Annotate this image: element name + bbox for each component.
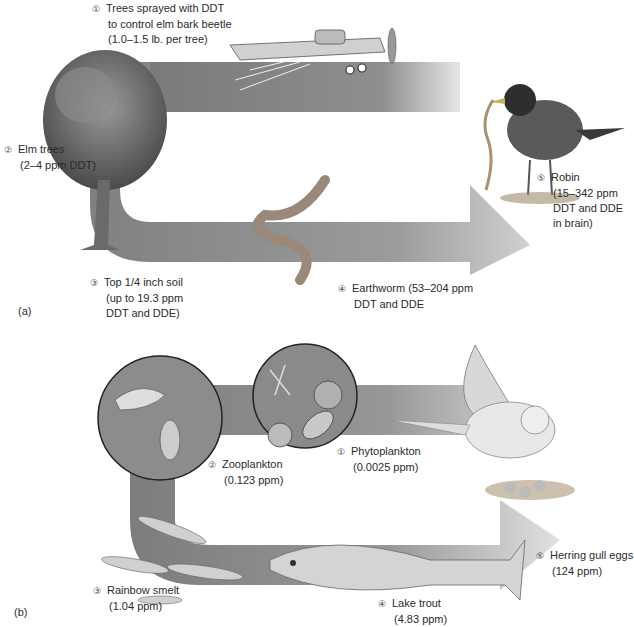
step-number: ④	[338, 284, 346, 294]
label-line: (up to 19.3 ppm	[90, 291, 183, 306]
step-number: ⑤	[536, 551, 544, 561]
label-a-step4: ④Earthworm (53–204 ppm DDT and DDE	[338, 281, 473, 312]
step-number: ⑤	[537, 173, 545, 183]
step-number: ④	[378, 599, 386, 609]
label-line: (124 ppm)	[536, 564, 633, 579]
label-a-step5: ⑤Robin (15–342 ppm DDT and DDE in brain)	[537, 170, 623, 231]
panel-b-label: (b)	[14, 606, 27, 618]
label-line: (0.0025 ppm)	[337, 460, 421, 475]
label-line: (15–342 ppm	[537, 186, 623, 201]
label-line: DDT and DDE	[537, 201, 623, 216]
herring-gull-illustration	[390, 345, 575, 500]
label-line: (1.04 ppm)	[93, 599, 179, 614]
label-line: (1.0–1.5 lb. per tree)	[92, 32, 232, 47]
label-line: Trees sprayed with DDT	[106, 2, 224, 14]
label-line: (4.83 ppm)	[378, 612, 447, 627]
label-line: (0.123 ppm)	[208, 473, 283, 488]
label-line: Phytoplankton	[351, 445, 421, 457]
label-line: in brain)	[537, 216, 623, 231]
label-b-step1: ①Phytoplankton (0.0025 ppm)	[337, 444, 421, 475]
label-a-step1: ①Trees sprayed with DDT to control elm b…	[92, 1, 232, 47]
panel-a-label: (a)	[18, 305, 31, 317]
step-number: ③	[90, 278, 98, 288]
label-line: Herring gull eggs	[550, 549, 633, 561]
label-line: Zooplankton	[222, 458, 283, 470]
step-number: ②	[4, 145, 12, 155]
label-b-step2: ②Zooplankton (0.123 ppm)	[208, 457, 283, 488]
label-b-step3: ③Rainbow smelt (1.04 ppm)	[93, 583, 179, 614]
label-b-step4: ④Lake trout (4.83 ppm)	[378, 596, 447, 627]
zooplankton-circle	[98, 356, 222, 480]
label-line: Robin	[551, 171, 580, 183]
label-line: Earthworm (53–204 ppm	[352, 282, 473, 294]
label-a-step3: ③Top 1/4 inch soil (up to 19.3 ppm DDT a…	[90, 275, 183, 321]
label-line: Elm trees	[18, 143, 64, 155]
label-line: DDT and DDE)	[90, 306, 183, 321]
label-line: DDT and DDE	[338, 297, 473, 312]
step-number: ①	[92, 4, 100, 14]
step-number: ②	[208, 460, 216, 470]
label-b-step5: ⑤Herring gull eggs (124 ppm)	[536, 548, 633, 579]
phytoplankton-circle	[253, 344, 357, 448]
label-line: Rainbow smelt	[107, 584, 179, 596]
label-line: to control elm bark beetle	[92, 17, 232, 32]
label-a-step2: ②Elm trees (2–4 ppm DDT)	[4, 142, 96, 173]
label-line: (2–4 ppm DDT)	[4, 158, 96, 173]
label-line: Lake trout	[392, 597, 441, 609]
step-number: ①	[337, 447, 345, 457]
label-line: Top 1/4 inch soil	[104, 276, 183, 288]
step-number: ③	[93, 586, 101, 596]
